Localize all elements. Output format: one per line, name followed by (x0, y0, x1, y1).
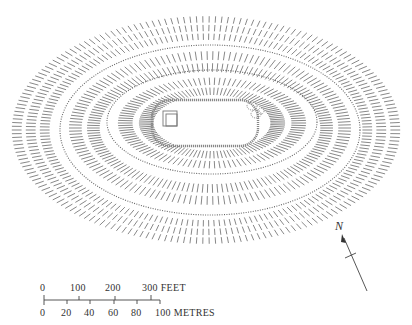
scale-label-feet-0: 0 (40, 282, 45, 293)
scale-bar: 0 100 200 300 FEET 0 20 40 60 80 100 MET… (40, 282, 215, 318)
scale-label-m-100: 100 METRES (155, 307, 215, 318)
rectangular-building-icon (163, 111, 177, 126)
site-plan: 0 100 200 300 FEET 0 20 40 60 80 100 MET… (0, 0, 412, 325)
east-pits (247, 102, 264, 118)
scale-label-m-20: 20 (61, 307, 72, 318)
north-label: N (334, 219, 344, 233)
north-arrow-icon: N (334, 219, 367, 291)
scale-label-m-80: 80 (131, 307, 142, 318)
rampart-lines (60, 45, 360, 215)
scale-label-feet-300: 300 FEET (142, 282, 186, 293)
scale-label-m-60: 60 (108, 307, 119, 318)
central-enclosure (152, 100, 258, 146)
scale-label-m-0: 0 (40, 307, 45, 318)
scale-label-feet-100: 100 (70, 282, 86, 293)
hachure-lines (12, 17, 400, 244)
scale-label-feet-200: 200 (105, 282, 121, 293)
scale-label-m-40: 40 (84, 307, 95, 318)
